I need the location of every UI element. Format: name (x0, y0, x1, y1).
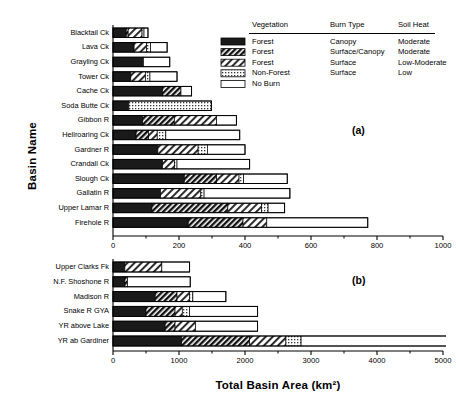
legend-swatch (221, 59, 245, 66)
bar-segment (262, 203, 269, 213)
bar-segment (175, 306, 182, 316)
bar-segment (113, 101, 129, 111)
bar-segment (144, 28, 148, 38)
legend-entry-text: Low (398, 68, 412, 77)
bar-segment (113, 203, 152, 213)
bar-segment (190, 292, 193, 302)
bar-segment (113, 28, 126, 38)
bar-segment (181, 86, 192, 96)
bar-segment (113, 277, 125, 287)
bar-segment (166, 130, 240, 140)
bar-segment (244, 174, 288, 184)
x-tick-label: 2000 (225, 357, 265, 365)
legend-divider (249, 33, 435, 34)
category-label: Gardner R (74, 146, 109, 153)
bar-segment (201, 189, 204, 199)
bar-segment (239, 174, 244, 184)
bar-segment (267, 218, 368, 228)
bar-segment (158, 145, 198, 155)
bar-segment (151, 43, 168, 53)
x-tick-label: 200 (159, 242, 199, 250)
bar-segment (250, 336, 286, 346)
category-label: Gallatin R (77, 189, 109, 196)
category-label: Grayling Ck (70, 58, 109, 65)
bar-segment (243, 218, 267, 228)
bar-segment (190, 306, 258, 316)
bar-segment (174, 116, 216, 126)
category-label: Hellroaring Ck (62, 131, 109, 138)
bar-segment (228, 203, 262, 213)
x-tick-label: 1000 (159, 357, 199, 365)
legend-entry-text: Canopy (330, 37, 356, 46)
bar-segment (161, 189, 201, 199)
bar-segment (113, 336, 182, 346)
bar-segment (113, 306, 146, 316)
bar-segment (301, 336, 446, 346)
category-label: Snake R GYA (64, 307, 109, 314)
legend-entry-text: Non-Forest (252, 68, 290, 77)
x-tick-label: 400 (225, 242, 265, 250)
bar-segment (131, 72, 146, 82)
bar-segment (113, 43, 134, 53)
x-tick-label: 3000 (291, 357, 331, 365)
legend-entry-text: Forest (252, 37, 274, 46)
bar-segment (146, 306, 175, 316)
category-label: Cache Ck (77, 87, 109, 94)
category-label: Crandall Ck (70, 160, 109, 167)
bar-segment (145, 72, 150, 82)
bar-segment (113, 262, 125, 272)
bar-segment (113, 130, 136, 140)
bar-segment (113, 72, 131, 82)
bar-segment (196, 321, 258, 331)
category-label: Tower Ck (78, 73, 109, 80)
x-axis-title: Total Basin Area (km²) (113, 379, 443, 391)
bar-segment (165, 321, 175, 331)
category-label: Blacktail Ck (70, 29, 109, 36)
bar-segment (113, 189, 161, 199)
legend-entry-text: No Burn (252, 79, 280, 88)
bar-segment (286, 336, 301, 346)
legend-entry-text: Surface/Canopy (330, 47, 384, 56)
category-label: YR ab Gardiner (58, 337, 109, 344)
bar-segment (177, 159, 250, 169)
legend-entry-text: Moderate (398, 37, 430, 46)
bar-segment (113, 57, 143, 66)
legend-swatches (221, 38, 245, 87)
bar-segment (113, 145, 158, 155)
panel-tag: (b) (352, 274, 365, 286)
category-label: Upper Lamar R (58, 204, 109, 211)
bar-segment (143, 116, 175, 126)
legend-entry-text: Moderate (398, 47, 430, 56)
category-label: N.F. Shoshone R (53, 278, 109, 285)
bar-segment (188, 218, 243, 228)
bar-segment (113, 218, 188, 228)
bar-segment (113, 292, 155, 302)
bar-segment (136, 130, 149, 140)
legend-entry-text: Forest (252, 58, 274, 67)
bar-segment (125, 277, 128, 287)
category-label: YR above Lake (58, 322, 109, 329)
x-tick-label: 800 (357, 242, 397, 250)
category-label: Gibbon R (78, 116, 109, 123)
bar-segment (184, 174, 216, 184)
panel-tag: (a) (352, 124, 365, 136)
bar-segment (217, 174, 239, 184)
legend-swatch (221, 70, 245, 77)
bar-segment (163, 159, 175, 169)
bar-segment (182, 306, 189, 316)
category-label: Slough Ck (75, 175, 109, 182)
category-label: Firehole R (75, 219, 109, 226)
category-label: Madison R (74, 293, 109, 300)
legend-header: Vegetation (252, 20, 288, 29)
bar-segment (150, 72, 177, 82)
panel-b-bars (113, 262, 446, 346)
bar-segment (134, 43, 147, 53)
bar-segment (113, 159, 163, 169)
x-tick-label: 5000 (423, 357, 456, 365)
bar-segment (204, 189, 290, 199)
x-tick-label: 0 (93, 242, 133, 250)
bar-segment (157, 130, 166, 140)
category-label: Soda Butte Ck (61, 102, 109, 109)
bar-segment (182, 336, 250, 346)
